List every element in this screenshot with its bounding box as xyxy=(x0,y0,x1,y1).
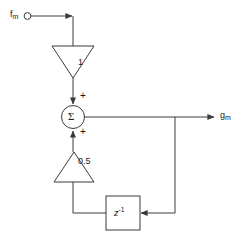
delay-label-base: z xyxy=(114,208,119,218)
sigma-icon: Σ xyxy=(68,111,74,122)
input-label-subscript: m xyxy=(13,13,19,20)
feedback-gain-value: 0.5 xyxy=(78,157,91,166)
forward-gain-triangle xyxy=(52,46,94,78)
sum-bottom-input-sign: + xyxy=(80,127,86,137)
block-diagram-canvas: fm 1 Σ + + 0.5 z-1 gm xyxy=(0,0,244,242)
input-terminal-circle-icon xyxy=(24,13,31,20)
output-label-subscript: m xyxy=(225,114,231,121)
input-signal-label: fm xyxy=(10,10,18,19)
delay-label-exponent: -1 xyxy=(119,206,125,213)
forward-gain-value: 1 xyxy=(78,58,83,67)
output-signal-label: gm xyxy=(220,111,231,120)
delay-block-label: z-1 xyxy=(114,209,124,218)
sum-top-input-sign: + xyxy=(80,91,86,101)
